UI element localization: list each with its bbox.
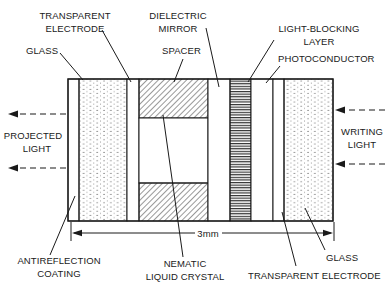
writing-light-arrows: [335, 107, 385, 168]
layer-stack: [68, 79, 333, 221]
label-antireflection-1: ANTIREFLECTION: [17, 255, 100, 266]
dielectric-mirror-layer: [208, 79, 230, 221]
label-writing-light-1: WRITING: [341, 126, 383, 137]
label-transparent-electrode-bottom: TRANSPARENT ELECTRODE: [248, 270, 381, 281]
label-light-blocking-1: LIGHT-BLOCKING: [278, 23, 359, 34]
label-nematic-2: LIQUID CRYSTAL: [146, 271, 225, 282]
transparent-electrode-left-layer: [127, 79, 139, 221]
light-valve-diagram: 3mm TRANSPARENT ELECTRODE DIELECTRIC MIR…: [0, 0, 385, 287]
label-writing-light-2: LIGHT: [348, 139, 377, 150]
label-projected-light-1: PROJECTED: [4, 130, 62, 141]
glass-right-layer: [284, 79, 333, 221]
label-spacer: SPACER: [162, 45, 201, 56]
label-transparent-electrode-top-1: TRANSPARENT: [39, 10, 110, 21]
label-nematic-1: NEMATIC: [164, 258, 207, 269]
label-glass-left: GLASS: [26, 45, 58, 56]
label-transparent-electrode-top-2: ELECTRODE: [46, 23, 105, 34]
nematic-liquid-crystal-region: [139, 118, 208, 183]
label-dielectric-mirror-2: MIRROR: [158, 23, 197, 34]
label-light-blocking-2: LAYER: [304, 36, 335, 47]
spacer-top: [139, 79, 208, 118]
transparent-electrode-right-layer: [273, 79, 284, 221]
label-glass-right: GLASS: [326, 252, 358, 263]
dimension-label: 3mm: [197, 228, 218, 239]
label-dielectric-mirror-1: DIELECTRIC: [149, 10, 207, 21]
photoconductor-layer: [251, 79, 273, 221]
label-antireflection-2: COATING: [37, 268, 80, 279]
light-blocking-layer: [230, 79, 251, 221]
glass-left-layer: [79, 79, 127, 221]
label-projected-light-2: LIGHT: [23, 143, 52, 154]
projected-light-arrows: [8, 111, 66, 172]
label-photoconductor: PHOTOCONDUCTOR: [278, 53, 375, 64]
